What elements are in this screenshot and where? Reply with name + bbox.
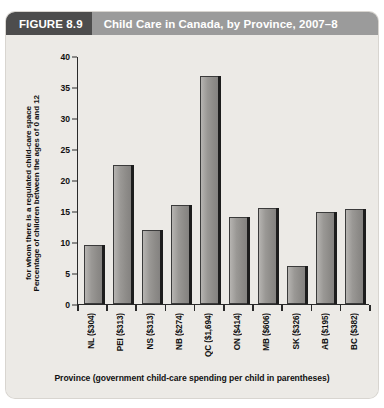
bar-slot xyxy=(165,57,194,304)
x-label-slot: SK ($326) xyxy=(281,311,310,371)
y-tick-label: 20 xyxy=(60,176,70,186)
y-tick-mark xyxy=(72,150,77,151)
x-tick-label: AB ($195) xyxy=(321,313,330,350)
y-tick-mark xyxy=(72,305,77,306)
y-tick-mark xyxy=(72,57,77,58)
y-tick-label: 10 xyxy=(60,238,70,248)
bar-slot xyxy=(282,57,311,304)
x-tick-label: SK ($326) xyxy=(292,313,301,349)
x-label-slot: MB ($606) xyxy=(252,311,281,371)
bar xyxy=(84,245,102,304)
x-tick-label: QC ($1,694) xyxy=(204,313,213,357)
y-tick-mark xyxy=(72,274,77,275)
y-tick-label: 15 xyxy=(60,207,70,217)
x-axis-title: Province (government child-care spending… xyxy=(6,373,378,383)
y-tick-mark xyxy=(72,212,77,213)
bar xyxy=(171,205,189,304)
x-axis-category-labels: NL ($304)PEI ($313)NS ($313)NB ($274)QC … xyxy=(77,311,369,371)
bar-slot xyxy=(223,57,252,304)
x-label-slot: QC ($1,694) xyxy=(194,311,223,371)
y-tick-mark xyxy=(72,88,77,89)
figure-title: Child Care in Canada, by Province, 2007–… xyxy=(92,18,338,30)
bar xyxy=(200,76,218,304)
bar-slot xyxy=(78,57,107,304)
y-tick-label: 0 xyxy=(65,300,70,310)
y-axis-tick-labels: 0510152025303540 xyxy=(50,57,70,305)
y-axis-title: for whom there is a regulated child-care… xyxy=(16,53,50,333)
chart-body: for whom there is a regulated child-care… xyxy=(6,35,378,398)
bar-slot xyxy=(107,57,136,304)
y-tick-label: 30 xyxy=(60,114,70,124)
bar xyxy=(113,165,131,305)
x-label-slot: AB ($195) xyxy=(311,311,340,371)
y-tick-mark xyxy=(72,181,77,182)
bar-slot xyxy=(311,57,340,304)
x-label-slot: NB ($274) xyxy=(165,311,194,371)
x-tick-label: NB ($274) xyxy=(175,313,184,350)
x-tick-label: PEI ($313) xyxy=(116,313,125,351)
figure-title-bar: FIGURE 8.9 Child Care in Canada, by Prov… xyxy=(6,12,378,35)
bar xyxy=(142,230,160,304)
x-label-slot: PEI ($313) xyxy=(106,311,135,371)
x-tick-label: ON ($414) xyxy=(233,313,242,350)
x-tick-label: MB ($606) xyxy=(262,313,271,351)
bar-slot xyxy=(253,57,282,304)
y-tick-mark xyxy=(72,243,77,244)
x-tick-mark xyxy=(369,305,371,311)
x-tick-label: BC ($382) xyxy=(350,313,359,350)
y-tick-mark xyxy=(72,119,77,120)
x-label-slot: NS ($313) xyxy=(135,311,164,371)
bar-slot xyxy=(340,57,369,304)
x-label-slot: NL ($304) xyxy=(77,311,106,371)
bar xyxy=(229,217,247,304)
x-label-slot: ON ($414) xyxy=(223,311,252,371)
bar xyxy=(316,212,334,304)
bar xyxy=(287,266,305,304)
y-tick-label: 40 xyxy=(60,52,70,62)
x-label-slot: BC ($382) xyxy=(340,311,369,371)
x-tick-label: NL ($304) xyxy=(87,313,96,349)
y-tick-label: 25 xyxy=(60,145,70,155)
bar xyxy=(258,208,276,304)
bar-series xyxy=(78,57,369,304)
y-axis-title-line1: Percentage of children between the ages … xyxy=(33,95,41,291)
figure-number-tab: FIGURE 8.9 xyxy=(6,12,92,35)
y-tick-label: 35 xyxy=(60,83,70,93)
plot-area xyxy=(77,57,369,305)
bar-slot xyxy=(194,57,223,304)
x-tick-label: NS ($313) xyxy=(146,313,155,349)
bar xyxy=(345,209,363,304)
bar-slot xyxy=(136,57,165,304)
y-tick-label: 5 xyxy=(65,269,70,279)
figure-container: FIGURE 8.9 Child Care in Canada, by Prov… xyxy=(0,0,384,408)
